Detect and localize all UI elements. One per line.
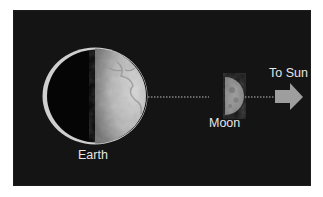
to-sun-label: To Sun — [269, 67, 308, 80]
earth-moon-sun-diagram — [13, 10, 311, 186]
moon — [225, 77, 244, 115]
moon-label: Moon — [209, 117, 240, 130]
diagram-panel: Earth Moon To Sun — [13, 10, 311, 186]
to-sun-arrow-icon — [275, 83, 303, 110]
earth — [43, 40, 156, 152]
earth-label: Earth — [78, 149, 108, 162]
